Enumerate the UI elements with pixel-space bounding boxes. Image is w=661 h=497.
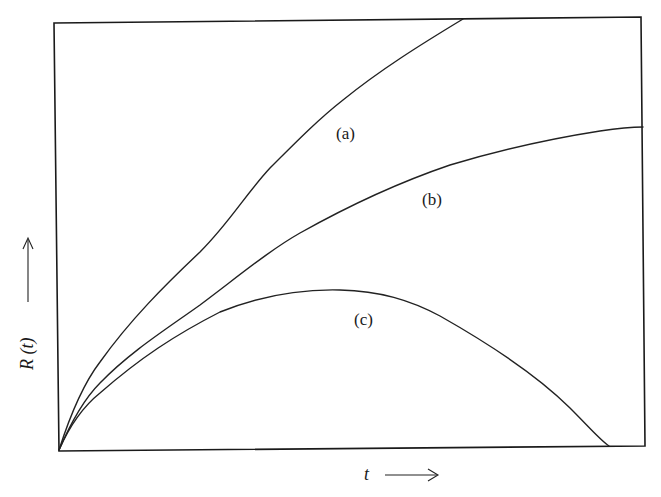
y-axis-label: R (t) <box>17 338 38 371</box>
curve-label-b: (b) <box>422 190 442 209</box>
chart-figure: (a) (b) (c) t R (t) <box>0 0 661 497</box>
curve-label-a: (a) <box>336 124 355 143</box>
x-axis-label: t <box>364 464 370 484</box>
y-axis-arrow-icon <box>23 238 33 302</box>
x-axis-arrow-icon <box>385 469 438 481</box>
curve-label-c: (c) <box>354 310 373 329</box>
curve-b <box>59 127 643 450</box>
plot-frame <box>54 17 645 451</box>
curve-a <box>59 19 463 450</box>
curve-c <box>59 290 609 450</box>
